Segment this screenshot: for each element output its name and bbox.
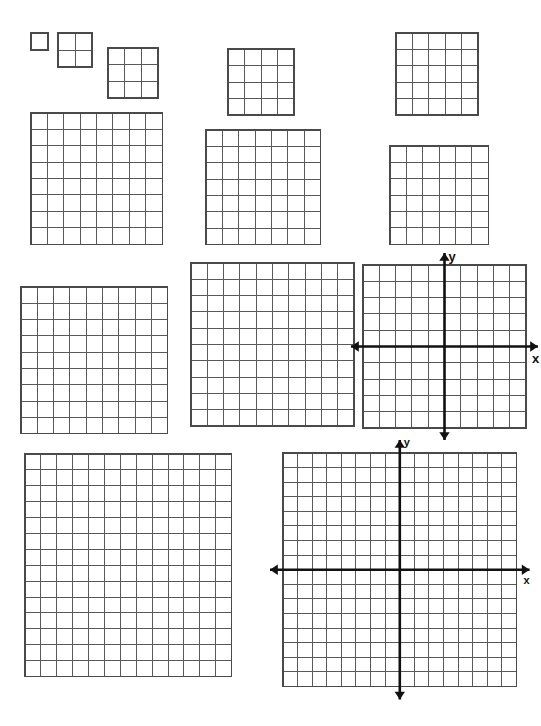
grid-14x13 [15,444,242,687]
x-axis-arrow-left [270,565,278,575]
grid-2x2 [48,23,102,77]
grid-4x4 [218,39,304,125]
x-axis-arrow-left [351,341,359,351]
grid-5x5 [386,23,488,125]
grid-4x4-svg [218,39,304,125]
coordinate-plane-10x10 [341,243,541,450]
grid-8x8-svg [21,103,172,254]
grid-8x8 [21,103,172,254]
grid-2x2-svg [48,23,102,77]
coordinate-plane-10x10-y-axis-label: y [449,250,456,263]
coordinate-plane-16x16-y-axis-label: y [404,437,410,448]
coordinate-plane-16x16 [260,430,540,710]
grid-5x5-svg [386,23,488,125]
grid-7x7 [196,120,331,255]
grid-background [206,130,321,245]
coordinate-plane-16x16-svg [260,430,540,710]
grid-background [21,287,168,434]
grid-3x3 [98,38,168,108]
grid-9x9 [11,277,178,444]
grid-10x10-svg [181,253,364,436]
grid-3x3-svg [98,38,168,108]
coordinate-plane-10x10-svg [341,243,541,450]
grid-9x9-svg [11,277,178,444]
grid-10x10 [181,253,364,436]
grid-14x13-svg [15,444,242,687]
grid-background [396,33,478,115]
grid-6x6 [380,136,498,254]
grid-7x7-svg [196,120,331,255]
coordinate-plane-10x10-x-axis-label: x [532,352,539,365]
grid-6x6-svg [380,136,498,254]
coordinate-plane-16x16-x-axis-label: x [524,575,530,586]
grid-background [108,48,158,98]
worksheet-page: yxyx [0,0,541,726]
grid-background [31,33,48,50]
y-axis-arrow-down [395,692,405,700]
